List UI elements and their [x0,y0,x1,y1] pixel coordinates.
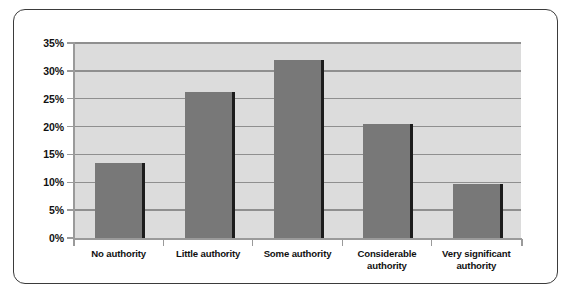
bar [274,60,321,238]
x-axis-endcap-right [521,239,523,246]
x-axis-category-label: Considerableauthority [342,248,431,271]
x-axis-tick [342,239,343,246]
y-axis-tick-label: 35% [24,38,64,49]
x-axis-category-label-line: No authority [74,248,163,260]
bar [185,92,232,238]
bar [453,184,500,238]
x-axis-category-label: Very significantauthority [432,248,521,271]
y-axis-tick [67,126,74,127]
y-axis-tick-label: 20% [24,122,64,133]
x-axis-category-label-line: authority [432,260,521,272]
x-axis-category-label: No authority [74,248,163,260]
bar-shadow-edge [321,60,324,238]
y-axis-tick-label: 25% [24,94,64,105]
bar [95,163,142,238]
bar-shadow-edge [142,163,145,238]
y-axis-tick-label: 15% [24,149,64,160]
y-axis-tick [67,70,74,71]
x-axis-tick [431,239,432,246]
bar-shadow-edge [500,184,503,238]
x-axis-line [73,238,522,240]
gridline [74,42,521,43]
x-axis-endcap-left [73,239,75,246]
y-axis-tick-label: 5% [24,205,64,216]
y-axis-tick-label: 30% [24,66,64,77]
y-axis-tick [67,182,74,183]
x-axis-category-label-line: authority [342,260,431,272]
bar-shadow-edge [410,124,413,238]
x-axis-category-label-line: Very significant [432,248,521,260]
x-axis-category-label: Little authority [163,248,252,260]
x-axis-category-label-line: Considerable [342,248,431,260]
y-axis-tick [67,154,74,155]
x-axis-tick [163,239,164,246]
x-axis-tick [252,239,253,246]
bar [363,124,410,238]
bar-chart: 0%5%10%15%20%25%30%35% No authorityLittl… [0,0,571,299]
y-axis-labels: 0%5%10%15%20%25%30%35% [20,0,64,299]
y-axis-tick [67,98,74,99]
x-axis-category-label-line: Little authority [163,248,252,260]
bar-shadow-edge [232,92,235,238]
x-axis-category-label: Some authority [253,248,342,260]
y-axis-tick-label: 0% [24,233,64,244]
x-axis-category-label-line: Some authority [253,248,342,260]
y-axis-tick-label: 10% [24,177,64,188]
plot-area [74,43,521,238]
y-axis-tick [67,42,74,43]
y-axis-tick [67,209,74,210]
